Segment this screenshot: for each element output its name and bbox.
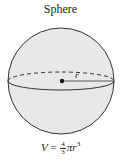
formula-eq: = bbox=[48, 141, 60, 153]
formula-fraction: 43 bbox=[60, 141, 66, 156]
formula-exp: 3 bbox=[77, 140, 81, 148]
volume-formula: V = 43πr3 bbox=[0, 140, 121, 156]
sphere-figure: r bbox=[0, 0, 121, 163]
formula-lhs: V bbox=[41, 141, 48, 153]
center-point bbox=[60, 79, 64, 83]
radius-label: r bbox=[75, 70, 79, 80]
frac-den: 3 bbox=[60, 149, 66, 156]
